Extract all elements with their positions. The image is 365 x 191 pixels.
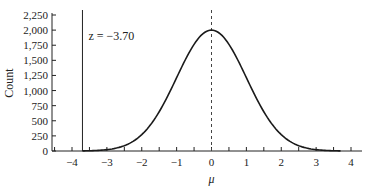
- y-tick-label: 2,000: [23, 24, 48, 36]
- y-axis-label: Count: [2, 68, 16, 98]
- chart: 02505007501,0001,2501,5001,7502,0002,250…: [0, 0, 365, 191]
- y-tick-label: 750: [32, 100, 49, 112]
- x-axis-label: μ: [207, 172, 214, 186]
- x-tick-label: 1: [244, 156, 250, 168]
- z-annotation: z = −3.70: [88, 29, 134, 43]
- y-tick-label: 2,250: [23, 9, 48, 21]
- x-tick-label: 4: [348, 156, 354, 168]
- y-axis: 02505007501,0001,2501,5001,7502,0002,250: [23, 9, 56, 157]
- x-tick-label: 2: [279, 156, 285, 168]
- x-tick-label: −3: [101, 156, 113, 168]
- x-tick-label: −4: [66, 156, 78, 168]
- y-tick-label: 1,750: [23, 39, 48, 51]
- y-tick-label: 0: [43, 145, 49, 157]
- y-tick-label: 1,250: [23, 69, 48, 81]
- y-tick-label: 1,500: [23, 54, 48, 66]
- x-tick-label: 0: [209, 156, 215, 168]
- x-tick-label: −1: [171, 156, 183, 168]
- x-tick-label: −2: [136, 156, 148, 168]
- x-tick-label: 3: [313, 156, 319, 168]
- y-tick-label: 500: [32, 115, 49, 127]
- y-tick-label: 1,000: [23, 85, 48, 97]
- y-tick-label: 250: [32, 130, 49, 142]
